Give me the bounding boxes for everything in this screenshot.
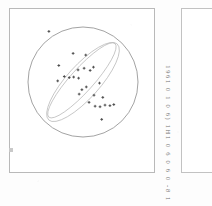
data-point <box>72 76 75 79</box>
adjacent-blank-panel <box>181 8 212 173</box>
data-point <box>77 77 80 80</box>
data-point <box>81 88 84 91</box>
data-point <box>83 67 86 70</box>
data-point <box>98 82 101 85</box>
data-point <box>78 93 81 96</box>
data-point <box>112 103 115 106</box>
data-point <box>72 52 75 55</box>
data-point <box>94 105 97 108</box>
data-point <box>89 69 92 72</box>
data-point <box>92 66 95 69</box>
data-point <box>88 101 91 104</box>
great-circle-upper <box>37 33 130 131</box>
data-point <box>100 118 103 121</box>
figure-panel <box>9 8 155 173</box>
stereonet-diagram <box>10 9 156 174</box>
great-circle-lower <box>40 36 123 125</box>
data-point <box>48 30 51 33</box>
scanned-page: 1961 0 1 0 6) 1H1 0 6 0 6 0 -8 1 <box>0 0 212 206</box>
data-point <box>93 94 96 97</box>
data-point <box>104 104 107 107</box>
data-point <box>109 104 112 107</box>
figure-caption: 1961 0 1 0 6) 1H1 0 6 0 6 0 -8 1 <box>160 4 176 202</box>
data-point <box>56 80 59 83</box>
caption-text-line: 1961 0 1 0 6) 1H1 0 6 0 6 0 -8 1 <box>160 4 176 202</box>
stereonet-group <box>28 27 138 137</box>
primitive-circle <box>28 27 138 137</box>
data-point <box>101 96 104 99</box>
data-point <box>57 64 60 67</box>
data-point <box>99 105 102 108</box>
data-point <box>85 86 88 89</box>
